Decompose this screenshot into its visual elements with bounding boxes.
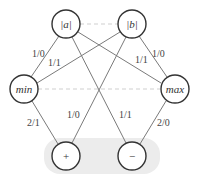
edge-label-b-plus: 1/0 xyxy=(67,109,80,120)
node-label-plus: + xyxy=(63,150,69,162)
node-label-abs-a: |a| xyxy=(60,18,72,30)
edge-label-a-max: 1/1 xyxy=(135,54,148,65)
node-label-min: min xyxy=(16,83,33,95)
node-label-abs-b: |b| xyxy=(126,18,138,30)
edge-label-max-minus: 2/0 xyxy=(157,117,170,128)
diagram: 1/0 1/1 1/1 1/0 2/1 1/0 1/1 2/0 |a| |b| … xyxy=(0,0,199,179)
edge-label-a-min: 1/0 xyxy=(32,48,45,59)
diagram-canvas: 1/0 1/1 1/1 1/0 2/1 1/0 1/1 2/0 |a| |b| … xyxy=(0,0,199,179)
edge-label-min-plus: 2/1 xyxy=(27,117,40,128)
edge-label-a-minus: 1/1 xyxy=(119,109,132,120)
edge-label-b-max: 1/0 xyxy=(152,48,165,59)
node-label-max: max xyxy=(166,83,184,95)
edge-a-max xyxy=(78,32,161,83)
edge-label-b-min: 1/1 xyxy=(48,57,61,68)
node-label-minus: − xyxy=(129,150,135,162)
